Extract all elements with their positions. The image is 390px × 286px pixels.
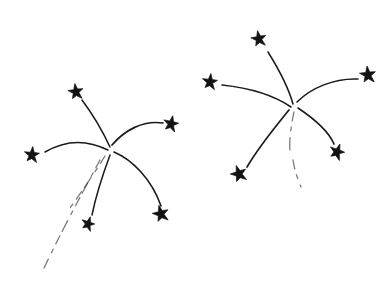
fireworks-illustration <box>0 0 390 286</box>
canvas-background <box>0 0 390 286</box>
fireworks-canvas <box>0 0 390 286</box>
